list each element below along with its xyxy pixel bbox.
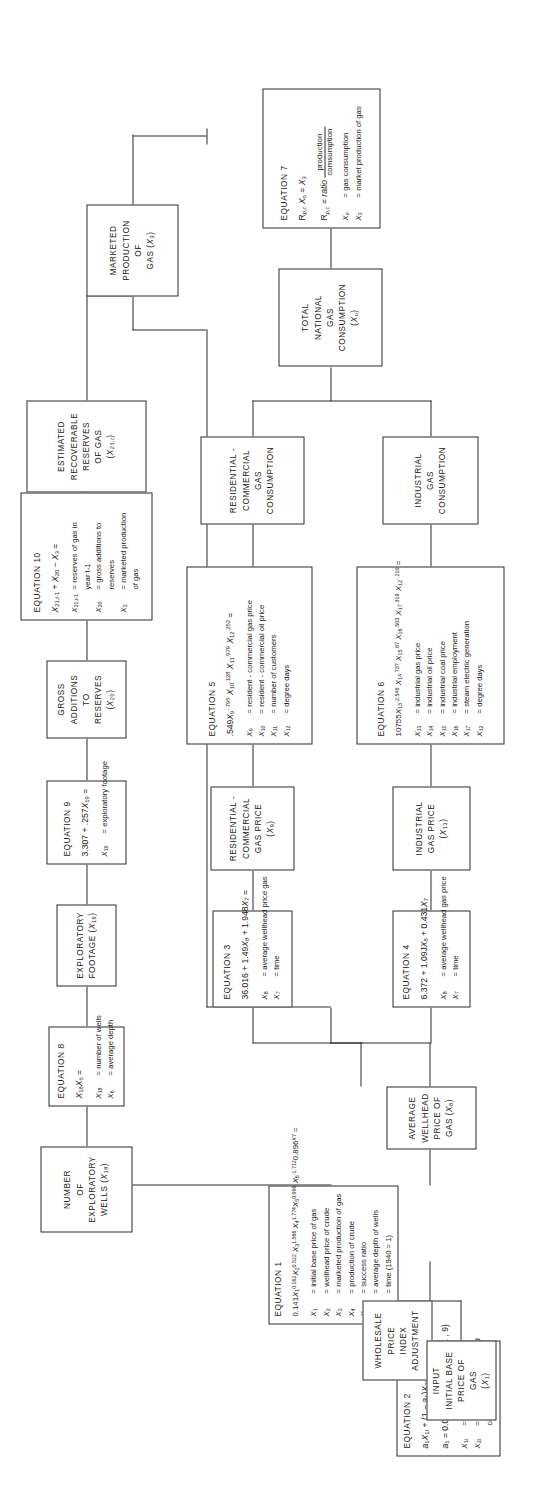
connector-eq6-to-indcons	[430, 524, 431, 566]
equation-9-box[interactable]: EQUATION 9 3.307 + .257X19 = X19= explor…	[46, 780, 126, 864]
equation-8-title: EQUATION 8	[55, 1043, 65, 1098]
equation-7-formula: Rp,c Xo = X3	[295, 176, 309, 220]
equation-8-formula: X18X6 =	[72, 1069, 86, 1098]
node-residential-price[interactable]: RESIDENTIAL - COMMERCIAL GAS PRICE (X9)	[210, 786, 294, 870]
connector-eq5-to-rescons	[252, 524, 253, 566]
equation-9-definitions: X19= exploratory footage	[98, 761, 110, 856]
connector-wells-to-eq8	[86, 1106, 87, 1146]
equation-4-title: EQUATION 4	[400, 944, 410, 999]
equation-6-title: EQUATION 6	[375, 681, 385, 736]
equation-7-title: EQUATION 7	[278, 165, 288, 220]
equation-10-definitions: X21,t-1= reserves of gas in year t-1 X20…	[68, 512, 140, 612]
total-national-consumption-label: TOTAL NATIONAL GAS CONSUMPTION (Xo)	[299, 283, 360, 350]
equation-1-definitions: X1= initial base price of gas X2= wellhe…	[307, 1193, 394, 1316]
equation-8-box[interactable]: EQUATION 8 X18X6 = X18= number of wells …	[48, 1026, 124, 1106]
node-estimated-reserves[interactable]: ESTIMATED RECOVERABLE RESERVES OF GAS (X…	[26, 400, 146, 492]
connector-total-to-eq7	[330, 228, 331, 268]
equation-1-title: EQUATION 1	[272, 1261, 282, 1316]
exploratory-footage-label: EXPLORATORY FOOTAGE (X19)	[74, 912, 99, 979]
average-wellhead-price-label: AVERAGE WELLHEAD PRICE OF GAS (X8)	[406, 1093, 455, 1142]
marketed-production-label: MARKETED PRODUCTION OF GAS (X3)	[107, 220, 156, 281]
input-base-price-label: INPUT INITIAL BASE PRICE OF GAS (X1)	[430, 1348, 491, 1412]
equation-4-formula: 6.372 + 1.09JX8 + 0.431X7	[417, 897, 431, 999]
equation-6-formula: 10755X13-2.546 X14.737 X15.87 X16.503 X1…	[392, 560, 405, 736]
connector-eq8-to-footage	[86, 986, 87, 1026]
node-total-national-consumption[interactable]: TOTAL NATIONAL GAS CONSUMPTION (Xo)	[278, 268, 382, 366]
connector-eq1-enter	[330, 1007, 331, 1043]
equation-2-title: EQUATION 2	[401, 1393, 411, 1448]
connector-eq2-to-input	[460, 1300, 461, 1340]
connector-wellhead-to-eq1	[429, 1042, 430, 1086]
equation-10-box[interactable]: EQUATION 10 X21,t-1 + X20 − X3 = X21,t-1…	[20, 492, 152, 620]
number-of-wells-label: NUMBER OF EXPLORATORY WELLS (X18)	[61, 1156, 110, 1223]
connector-eq9-to-gross	[86, 738, 87, 780]
equation-10-title: EQUATION 10	[31, 552, 41, 612]
connector-to-eq10-right	[86, 294, 87, 400]
equation-3-definitions: X8= average wellhead price gas X7= time	[258, 876, 283, 999]
connector-eq7-riser	[132, 135, 206, 136]
residential-consumption-label: RESIDENTIAL - COMMERCIAL GAS CONSUMPTION	[227, 446, 276, 513]
equation-1-formula: 0.141X10.162X20.522 X31.566 X41.774X50.9…	[289, 1127, 302, 1316]
equation-7-definitions: Xo= gas consumption X3= market productio…	[339, 106, 364, 220]
connector-to-eq4	[430, 1007, 431, 1043]
connector-rescons-to-total	[252, 400, 253, 436]
connector-footage-to-eq9	[86, 864, 87, 904]
node-wholesale-index[interactable]: WHOLESALE PRICE INDEX ADJUSTMENT	[362, 1300, 432, 1380]
connector-to-eq3	[252, 1007, 253, 1043]
equation-4-box[interactable]: EQUATION 4 6.372 + 1.09JX8 + 0.431X7 X8=…	[392, 910, 470, 1007]
equation-5-box[interactable]: EQUATION 5 .549X9-.795 X10.128 X11.979 X…	[186, 566, 312, 744]
node-residential-consumption[interactable]: RESIDENTIAL - COMMERCIAL GAS CONSUMPTION	[200, 436, 304, 524]
node-gross-additions[interactable]: GROSS ADDITIONS TO RESERVES (X20)	[46, 660, 126, 738]
flowchart-canvas: ESTIMATED RECOVERABLE RESERVES OF GAS (X…	[0, 0, 543, 1496]
connector-eq7-top	[206, 128, 207, 144]
node-average-wellhead-price[interactable]: AVERAGE WELLHEAD PRICE OF GAS (X8)	[386, 1086, 476, 1149]
connector-eq2-stub	[429, 1261, 430, 1301]
connector-wellhead-riser	[252, 1042, 362, 1043]
equation-9-title: EQUATION 9	[61, 801, 71, 856]
connector-eq7-to-marketed	[132, 134, 133, 206]
equation-3-formula: 36.016 + 1.49X8 + 1.948X7 =	[238, 890, 252, 1000]
node-number-of-wells[interactable]: NUMBER OF EXPLORATORY WELLS (X18)	[40, 1146, 132, 1232]
node-input-base-price[interactable]: INPUT INITIAL BASE PRICE OF GAS (X1)	[426, 1340, 496, 1420]
connector-indcons-to-total	[430, 400, 431, 436]
wholesale-index-label: WHOLESALE PRICE INDEX ADJUSTMENT	[372, 1310, 421, 1371]
equation-8-definitions: X18= number of wells X6= average depth	[92, 1015, 117, 1098]
equation-10-formula: X21,t-1 + X20 − X3 =	[48, 543, 62, 612]
connector-marketed-down	[132, 329, 206, 330]
equation-5-definitions: X9= resident - commercial gas price X10=…	[243, 600, 293, 736]
node-industrial-price[interactable]: INDUSTRIAL GAS PRICE (X13)	[392, 786, 470, 870]
industrial-consumption-label: INDUSTRIAL GAS CONSUMPTION	[412, 446, 449, 513]
equation-6-box[interactable]: EQUATION 6 10755X13-2.546 X14.737 X15.87…	[356, 566, 504, 744]
connector-resprice-to-eq5	[252, 744, 253, 786]
estimated-reserves-label: ESTIMATED RECOVERABLE RESERVES OF GAS (X…	[55, 412, 116, 479]
connector-merge-to-total	[330, 367, 331, 401]
connector-indprice-to-eq6	[430, 744, 431, 786]
residential-price-label: RESIDENTIAL - COMMERCIAL GAS PRICE (X9)	[227, 794, 276, 862]
equation-4-definitions: X8= average wellhead gas price X7= time	[437, 876, 462, 999]
equation-3-title: EQUATION 3	[221, 944, 231, 999]
rotated-figure-wrapper: ESTIMATED RECOVERABLE RESERVES OF GAS (X…	[0, 0, 543, 1496]
equation-9-formula: 3.307 + .257X19 =	[78, 788, 92, 856]
connector-consumption-merge	[252, 400, 431, 401]
connector-eq1-to-wellhead	[429, 1149, 430, 1185]
equation-5-formula: .549X9-.795 X10.128 X11.979 X12.252 =	[223, 612, 237, 736]
equation-6-definitions: X13= industrial gas price X14= industria…	[411, 620, 485, 736]
connector-marketed-left	[132, 296, 133, 330]
equation-3-box[interactable]: EQUATION 3 36.016 + 1.49X8 + 1.948X7 = X…	[212, 910, 292, 1007]
node-marketed-production[interactable]: MARKETED PRODUCTION OF GAS (X3)	[86, 204, 178, 296]
industrial-price-label: INDUSTRIAL GAS PRICE (X13)	[413, 801, 450, 855]
equation-7-box[interactable]: EQUATION 7 Rp,c Xo = X3 Rp,c = ratio pro…	[262, 88, 380, 228]
gross-additions-label: GROSS ADDITIONS TO RESERVES (X20)	[55, 668, 116, 730]
equation-7-formula-2: Rp,c = ratio productioncomsumption	[315, 126, 334, 220]
connector-wellhead-eq3	[360, 1042, 361, 1086]
node-exploratory-footage[interactable]: EXPLORATORY FOOTAGE (X19)	[56, 904, 116, 986]
connector-gross-to-eq10	[86, 620, 87, 660]
equation-5-title: EQUATION 5	[206, 681, 216, 736]
node-industrial-consumption[interactable]: INDUSTRIAL GAS CONSUMPTION	[382, 436, 478, 524]
